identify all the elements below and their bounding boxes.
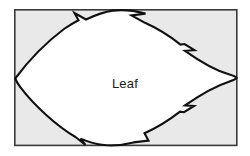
leaf-diagram-figure: Leaf bbox=[0, 0, 250, 156]
leaf-label-text: Leaf bbox=[112, 76, 138, 91]
leaf-diagram-canvas: Leaf bbox=[0, 0, 250, 156]
